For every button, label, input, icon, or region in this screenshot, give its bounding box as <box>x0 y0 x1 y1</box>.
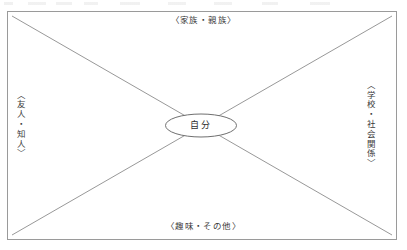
quadrant-label-left: 〈友人・知人〉 <box>15 91 25 160</box>
center-node-label: 自分 <box>165 118 237 131</box>
quadrant-label-top: 〈家族・親族〉 <box>0 15 407 25</box>
quadrant-label-bottom: 〈趣味・その他〉 <box>0 221 407 231</box>
quadrant-label-right: 〈学校・社会関係〉 <box>365 81 375 169</box>
